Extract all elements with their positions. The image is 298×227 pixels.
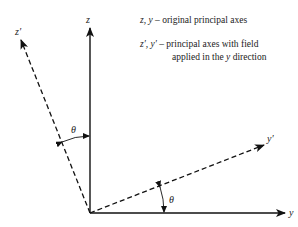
axes-diagram bbox=[0, 0, 298, 227]
theta-arc-upper bbox=[62, 136, 89, 142]
theta-arc-lower bbox=[160, 187, 164, 212]
y-axis-label: y bbox=[289, 207, 293, 218]
legend-vars-principal: z′, y′ bbox=[140, 39, 157, 49]
y-prime-axis-label: y′ bbox=[267, 133, 274, 144]
legend-line-3: applied in the y direction bbox=[172, 51, 266, 63]
legend-text-original: – original principal axes bbox=[153, 15, 247, 25]
theta-lower-label: θ bbox=[169, 194, 174, 205]
legend-line-2: z′, y′ – principal axes with field bbox=[140, 38, 258, 50]
theta-upper-label: θ bbox=[71, 124, 76, 135]
legend-text-principal: – principal axes with field bbox=[157, 39, 259, 49]
legend-text-applied-a: applied in the bbox=[172, 52, 226, 62]
z-prime-axis-label: z′ bbox=[15, 26, 21, 37]
legend-vars-original: z, y bbox=[140, 15, 153, 25]
z-axis-label: z bbox=[86, 14, 90, 25]
legend-text-applied-b: direction bbox=[230, 52, 266, 62]
legend-line-1: z, y – original principal axes bbox=[140, 14, 247, 26]
y-prime-axis bbox=[90, 145, 264, 213]
z-prime-axis bbox=[21, 40, 90, 213]
